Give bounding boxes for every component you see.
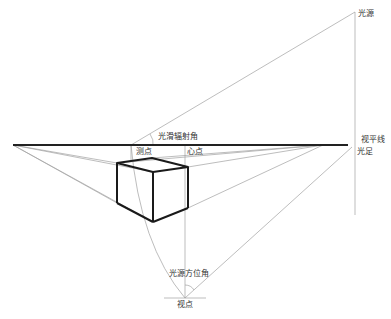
light-ray-line xyxy=(131,12,355,145)
viewpoint-label: 视点 xyxy=(177,301,193,309)
light-foot-label: 光足 xyxy=(357,148,373,156)
elevation-angle-arc xyxy=(150,134,153,145)
measuring-point-label: 测点 xyxy=(136,148,152,156)
light-elevation-angle-label: 光滑辐射角 xyxy=(158,133,198,141)
light-source-label: 光源 xyxy=(358,10,374,18)
cube xyxy=(117,158,188,222)
light-azimuth-angle-label: 光源方位角 xyxy=(169,270,209,278)
azimuth-angle-arc xyxy=(185,285,194,290)
center-point-label: 心点 xyxy=(187,148,203,156)
viewpoint-to-lightfoot-line xyxy=(185,147,352,298)
horizon-line-label: 视平线 xyxy=(361,136,385,144)
